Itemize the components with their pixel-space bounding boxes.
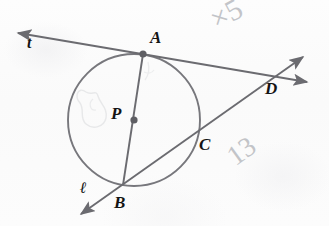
point-dot-a xyxy=(139,50,146,57)
diagram-svg xyxy=(0,0,329,226)
point-label-a: A xyxy=(150,29,161,46)
erased-pencil-scribble xyxy=(77,90,106,127)
tangent-line-t xyxy=(18,33,307,82)
point-label-p: P xyxy=(111,105,121,122)
point-dot-p xyxy=(130,116,137,123)
point-label-b: B xyxy=(114,194,125,211)
line-label-l: ℓ xyxy=(80,180,87,196)
point-label-d: D xyxy=(265,80,277,97)
line-label-t: t xyxy=(27,35,31,51)
point-label-c: C xyxy=(199,136,210,153)
faint-pencil-tick-near-a xyxy=(144,62,154,80)
geometry-diagram-canvas: ×5 13 A P B C D t ℓ xyxy=(0,0,329,226)
